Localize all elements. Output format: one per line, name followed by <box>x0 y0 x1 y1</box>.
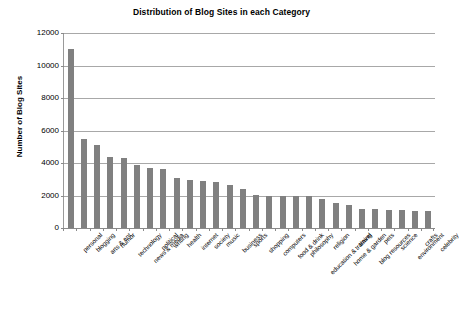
bar <box>240 189 246 228</box>
x-tick-mark <box>103 228 104 231</box>
bar <box>319 199 325 228</box>
x-tick-mark <box>302 228 303 231</box>
x-tick-mark <box>209 228 210 231</box>
x-tick-mark <box>63 228 64 231</box>
bar <box>121 158 127 228</box>
x-tick-mark <box>182 228 183 231</box>
bar <box>293 196 299 229</box>
bar <box>160 169 166 228</box>
x-category-label: religion <box>332 232 351 251</box>
bar <box>280 196 286 229</box>
bars-layer <box>64 33 435 228</box>
bar <box>81 139 87 228</box>
x-tick-mark <box>143 228 144 231</box>
bar <box>94 145 100 228</box>
x-tick-mark <box>355 228 356 231</box>
bar <box>200 181 206 228</box>
x-tick-mark <box>394 228 395 231</box>
bar <box>134 165 140 228</box>
y-tick-label: 12000 <box>15 29 59 37</box>
x-tick-mark <box>315 228 316 231</box>
x-tick-mark <box>249 228 250 231</box>
chart-title: Distribution of Blog Sites in each Categ… <box>0 7 443 17</box>
bar <box>147 168 153 228</box>
x-tick-mark <box>116 228 117 231</box>
x-tick-mark <box>408 228 409 231</box>
x-tick-mark <box>288 228 289 231</box>
bar <box>253 195 259 228</box>
bar <box>386 210 392 228</box>
bar <box>227 185 233 228</box>
bar <box>174 178 180 228</box>
bar <box>107 157 113 229</box>
y-tick-label: 4000 <box>15 159 59 167</box>
y-tick-label: 10000 <box>15 62 59 70</box>
bar <box>266 196 272 229</box>
x-tick-mark <box>76 228 77 231</box>
x-tick-mark <box>421 228 422 231</box>
x-tick-mark <box>275 228 276 231</box>
x-tick-mark <box>222 228 223 231</box>
bar <box>306 196 312 229</box>
plot-area <box>63 33 434 228</box>
y-tick-label: 2000 <box>15 192 59 200</box>
x-tick-mark <box>169 228 170 231</box>
bar <box>359 209 365 229</box>
x-axis-category-labels: personalbloggingarts & enthumortechnolog… <box>63 232 443 311</box>
x-tick-mark <box>129 228 130 231</box>
bar <box>68 49 74 228</box>
x-tick-mark <box>90 228 91 231</box>
bar <box>425 211 431 228</box>
bar <box>399 210 405 228</box>
y-tick-label: 0 <box>15 224 59 232</box>
y-tick-label: 6000 <box>15 127 59 135</box>
bar <box>187 180 193 228</box>
bar <box>346 205 352 228</box>
bar <box>372 209 378 228</box>
bar <box>333 203 339 228</box>
y-tick-label: 8000 <box>15 94 59 102</box>
bar <box>412 211 418 228</box>
bar <box>213 182 219 228</box>
x-tick-mark <box>341 228 342 231</box>
